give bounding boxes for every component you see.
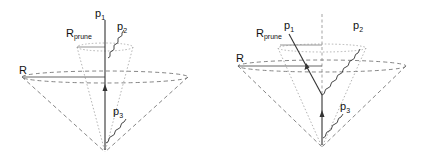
left-panel: p1 p2 p3 R Rprune — [19, 7, 188, 152]
arrow-icon — [103, 84, 108, 91]
p2-label: p2 — [117, 20, 127, 34]
p1-label: p1 — [95, 7, 105, 21]
R-label: R — [236, 52, 244, 64]
R-label: R — [19, 64, 27, 76]
p1-label: p1 — [284, 19, 294, 33]
p3-gluon — [323, 114, 343, 138]
p1-line — [289, 34, 322, 95]
p3-label: p3 — [113, 105, 123, 119]
Rprune-label: Rprune — [66, 27, 92, 41]
p3-label: p3 — [340, 100, 350, 114]
arrow-icon — [320, 110, 325, 117]
p3-gluon — [106, 119, 126, 143]
p2-label: p2 — [353, 19, 363, 33]
pruning-diagram: p1 p2 p3 R Rprune — [0, 0, 423, 157]
right-panel: p1 p2 p3 R Rprune — [236, 14, 406, 147]
Rprune-label: Rprune — [256, 27, 282, 41]
